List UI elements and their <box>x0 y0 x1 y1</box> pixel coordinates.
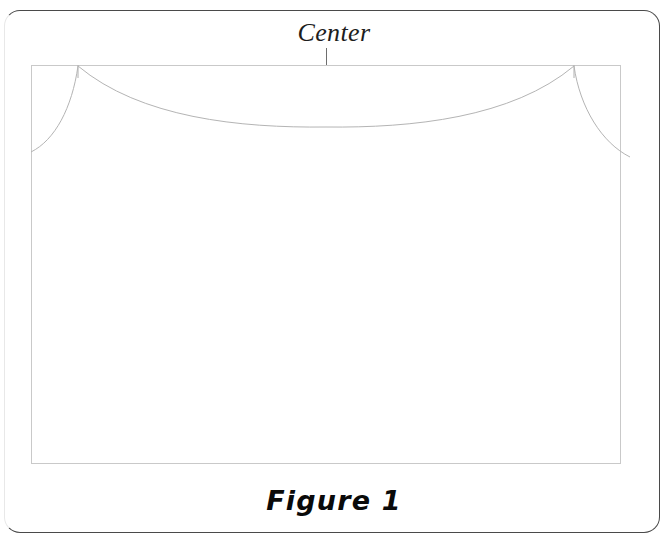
center-label: Center <box>0 19 668 47</box>
pattern-panel-rectangle <box>31 65 621 464</box>
figure-page: Center Figure 1 <box>0 0 668 545</box>
center-tick-line <box>326 48 327 66</box>
figure-caption: Figure 1 <box>0 486 668 516</box>
